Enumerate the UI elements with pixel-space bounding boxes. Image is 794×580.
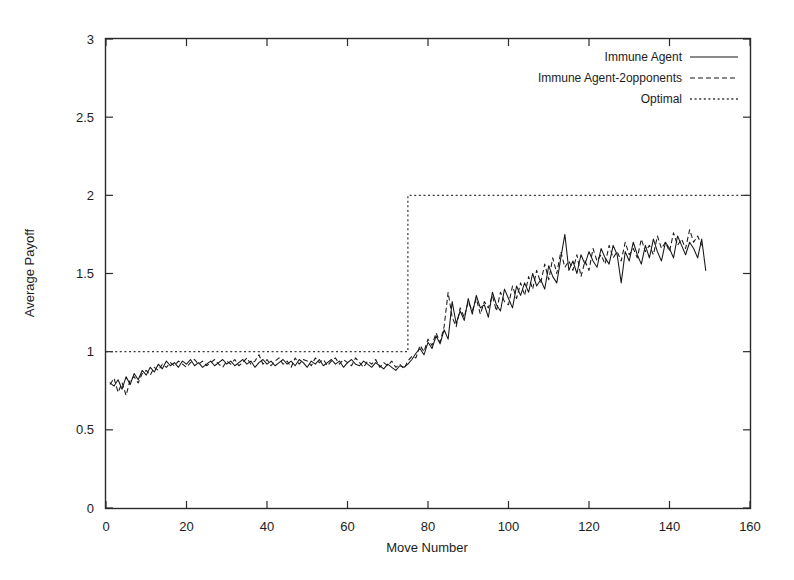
- y-tick-label: 2: [87, 188, 94, 203]
- payoff-line-chart: 02040608010012014016000.511.522.53 Move …: [0, 0, 794, 580]
- x-tick-label: 0: [102, 519, 109, 534]
- chart-background: [0, 0, 794, 580]
- x-axis-label: Move Number: [386, 540, 468, 555]
- y-axis-label: Average Payoff: [22, 228, 37, 317]
- y-tick-label: 0.5: [76, 422, 94, 437]
- y-tick-label: 2.5: [76, 110, 94, 125]
- y-tick-label: 1: [87, 344, 94, 359]
- x-tick-label: 140: [659, 519, 681, 534]
- x-tick-label: 160: [739, 519, 761, 534]
- x-tick-label: 100: [498, 519, 520, 534]
- legend-label-2: Immune Agent-2opponents: [538, 71, 682, 85]
- legend-label-3: Optimal: [641, 92, 682, 106]
- x-tick-label: 20: [179, 519, 193, 534]
- x-tick-label: 60: [340, 519, 354, 534]
- y-tick-label: 0: [87, 501, 94, 516]
- x-tick-label: 80: [421, 519, 435, 534]
- x-tick-label: 120: [578, 519, 600, 534]
- x-tick-label: 40: [260, 519, 274, 534]
- legend-label-1: Immune Agent: [605, 50, 683, 64]
- chart-figure: 02040608010012014016000.511.522.53 Move …: [0, 0, 794, 580]
- y-tick-label: 3: [87, 32, 94, 47]
- y-tick-label: 1.5: [76, 266, 94, 281]
